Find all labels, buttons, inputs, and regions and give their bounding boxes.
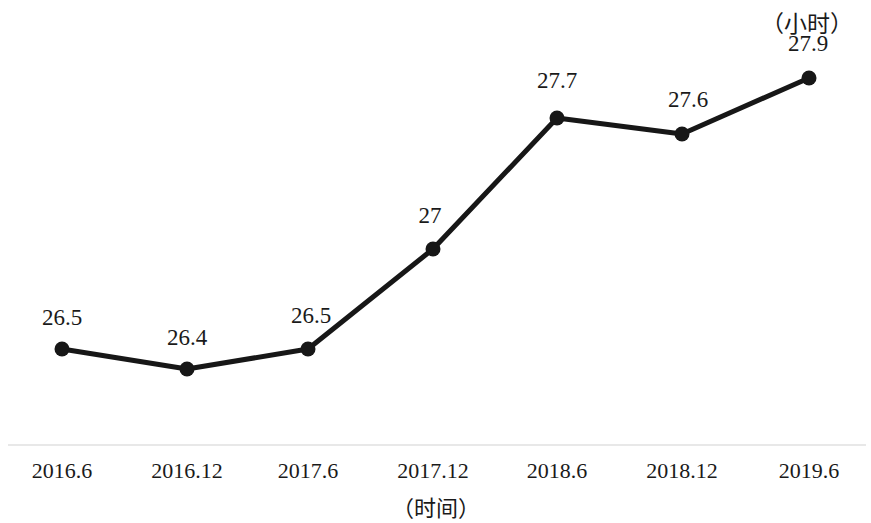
data-point-marker — [675, 127, 690, 142]
x-axis-tick-label: 2016.6 — [0, 458, 132, 484]
x-axis-tick-label: 2016.12 — [117, 458, 257, 484]
data-point-value-label: 26.5 — [7, 305, 117, 331]
data-point-value-label: 26.5 — [256, 303, 366, 329]
data-point-marker — [180, 362, 195, 377]
x-axis-tick-label: 2017.12 — [363, 458, 503, 484]
chart-plot-area — [0, 0, 871, 523]
x-axis-tick-label: 2017.6 — [238, 458, 378, 484]
data-point-marker — [301, 342, 316, 357]
data-point-value-label: 27 — [375, 203, 485, 229]
data-point-value-label: 27.6 — [633, 87, 743, 113]
data-point-marker — [426, 242, 441, 257]
line-chart: （小时） 26.526.426.52727.727.627.9 2016.620… — [0, 0, 871, 523]
data-point-marker — [55, 342, 70, 357]
data-point-value-label: 26.4 — [132, 325, 242, 351]
data-point-value-label: 27.9 — [753, 31, 863, 57]
data-point-marker — [802, 71, 817, 86]
data-point-value-label: 27.7 — [502, 68, 612, 94]
x-axis-tick-label: 2018.6 — [487, 458, 627, 484]
x-axis-tick-label: 2019.6 — [739, 458, 871, 484]
x-axis-tick-label: 2018.12 — [612, 458, 752, 484]
data-point-marker — [550, 111, 565, 126]
x-axis-title: （时间） — [0, 490, 871, 522]
